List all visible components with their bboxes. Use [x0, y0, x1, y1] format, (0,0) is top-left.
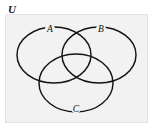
set-a-label: A — [46, 24, 53, 34]
venn-diagram-canvas: U A B C — [0, 0, 153, 136]
universe-label: U — [8, 3, 17, 15]
set-c-label: C — [73, 104, 80, 114]
venn-diagram-figure: U A B C — [0, 0, 153, 136]
set-b-label: B — [98, 24, 104, 34]
